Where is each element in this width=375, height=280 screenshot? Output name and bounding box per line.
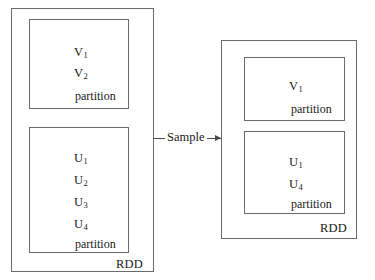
sample-arrow-label: Sample: [165, 131, 207, 144]
source-partition-1-label: partition: [75, 90, 116, 102]
result-element-u1: U1: [289, 156, 303, 169]
result-element-v1: V1: [289, 80, 303, 93]
rdd-sample-diagram: V1 V2 partition U1 U2 U3 U4 partition RD…: [0, 0, 375, 280]
result-rdd-label: RDD: [320, 222, 347, 235]
source-element-u1: U1: [74, 152, 88, 165]
result-partition-1-label: partition: [291, 103, 332, 115]
source-partition-2: [29, 127, 129, 253]
result-element-u4: U4: [289, 178, 303, 191]
source-element-u4: U4: [74, 218, 88, 231]
result-partition-2-label: partition: [291, 198, 332, 210]
source-element-v2: V2: [74, 67, 88, 80]
source-rdd-label: RDD: [116, 258, 143, 271]
source-element-u3: U3: [74, 196, 88, 209]
source-element-v1: V1: [74, 46, 88, 59]
source-element-u2: U2: [74, 174, 88, 187]
source-partition-2-label: partition: [75, 238, 116, 250]
